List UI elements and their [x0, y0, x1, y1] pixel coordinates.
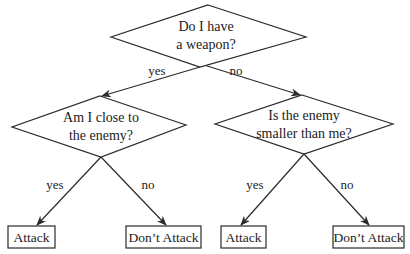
leaf-text: Don’t Attack: [129, 230, 199, 245]
decision-node-close-to-enemy: Am I close to the enemy?: [12, 96, 186, 157]
edge-left-no: [101, 157, 166, 225]
decision-node-enemy-smaller: Is the enemy smaller than me?: [215, 95, 393, 154]
edge-root-no: [204, 65, 300, 95]
edge-label-left-yes: yes: [46, 177, 63, 192]
node-text-line1: Am I close to: [63, 110, 139, 125]
leaf-node-dont-attack-right: Don’t Attack: [333, 226, 404, 248]
diamond-shape: [111, 5, 306, 67]
node-text-line1: Do I have: [178, 19, 233, 34]
leaf-node-attack-left: Attack: [8, 226, 55, 248]
edge-label-root-no: no: [230, 63, 243, 78]
node-text-line1: Is the enemy: [268, 108, 340, 123]
node-text-line2: smaller than me?: [256, 126, 352, 141]
diamond-shape: [12, 96, 186, 157]
node-text-line2: a weapon?: [176, 37, 235, 52]
leaf-node-attack-right: Attack: [221, 226, 266, 248]
edge-label-root-yes: yes: [148, 63, 165, 78]
edge-label-right-no: no: [341, 177, 354, 192]
leaf-text: Attack: [226, 230, 262, 245]
node-text-line2: the enemy?: [69, 128, 133, 143]
leaf-text: Don’t Attack: [334, 230, 404, 245]
decision-tree-diagram: Do I have a weapon? Am I close to the en…: [0, 0, 410, 254]
edge-label-left-no: no: [142, 177, 155, 192]
diamond-shape: [215, 95, 393, 154]
edge-label-right-yes: yes: [246, 177, 263, 192]
leaf-node-dont-attack-left: Don’t Attack: [126, 226, 201, 248]
leaf-text: Attack: [14, 230, 50, 245]
decision-node-weapon: Do I have a weapon?: [111, 5, 306, 67]
edge-right-no: [304, 154, 369, 225]
